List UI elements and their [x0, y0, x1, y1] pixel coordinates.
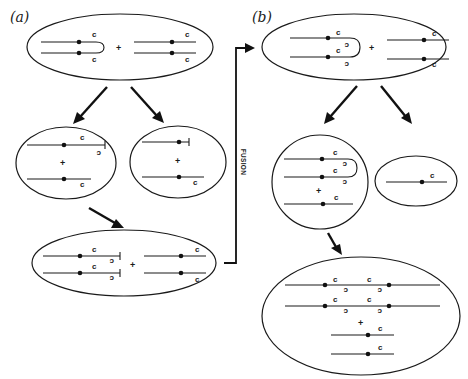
svg-text:c: c — [344, 41, 349, 50]
svg-text:c: c — [92, 30, 97, 39]
panel-b-daughter-right: c — [375, 156, 457, 206]
svg-text:c: c — [343, 286, 348, 295]
svg-text:+: + — [116, 43, 121, 53]
panel-b-arrow-to-bottom — [328, 233, 342, 255]
svg-text:c: c — [336, 46, 341, 55]
panel-a-label: (a) — [10, 9, 29, 25]
svg-text:c: c — [377, 307, 382, 316]
svg-text:c: c — [333, 148, 338, 157]
panel-a-division-arrows — [73, 87, 164, 124]
svg-text:c: c — [344, 60, 349, 69]
panel-a-top-cell: c c + c c — [27, 14, 213, 80]
svg-text:c: c — [109, 274, 114, 283]
svg-text:+: + — [130, 260, 135, 270]
svg-text:c: c — [96, 149, 101, 158]
panel-b-division-arrows — [324, 86, 412, 124]
bfb-cycle-diagram: (a) c c + c c c c + c — [0, 0, 468, 379]
panel-b-top-cell: c c c c + c c — [262, 14, 449, 80]
svg-text:c: c — [377, 286, 382, 295]
svg-text:+: + — [369, 43, 374, 53]
svg-text:c: c — [185, 30, 190, 39]
svg-text:c: c — [92, 55, 97, 64]
panel-b-daughter-left: c c c c + c — [272, 135, 368, 229]
svg-text:c: c — [80, 133, 85, 142]
panel-b-label: (b) — [252, 9, 272, 25]
svg-text:c: c — [343, 307, 348, 316]
svg-text:c: c — [430, 171, 435, 180]
svg-text:c: c — [342, 160, 347, 169]
svg-text:c: c — [378, 324, 383, 333]
svg-text:+: + — [358, 318, 363, 328]
svg-text:c: c — [333, 295, 338, 304]
svg-text:c: c — [342, 178, 347, 187]
svg-text:c: c — [336, 28, 341, 37]
svg-text:c: c — [333, 275, 338, 284]
svg-text:c: c — [334, 193, 339, 202]
svg-text:c: c — [195, 275, 200, 284]
svg-text:c: c — [367, 275, 372, 284]
panel-a-daughter-right: + c — [130, 126, 226, 198]
fusion-connector-arrow: FUSION — [224, 43, 255, 263]
svg-text:c: c — [109, 257, 114, 266]
panel-a-bottom-cell: c c c c + c c — [32, 230, 216, 296]
svg-text:c: c — [367, 295, 372, 304]
svg-text:c: c — [333, 166, 338, 175]
fusion-label: FUSION — [240, 149, 247, 175]
svg-text:c: c — [193, 178, 198, 187]
svg-text:c: c — [80, 180, 85, 189]
svg-text:c: c — [195, 245, 200, 254]
panel-a-arrow-to-bottom — [89, 208, 124, 228]
svg-text:c: c — [92, 245, 97, 254]
panel-b-bottom-cell: c c c c c c c c + c c — [262, 257, 460, 375]
svg-text:+: + — [175, 156, 180, 166]
svg-text:c: c — [92, 262, 97, 271]
svg-text:c: c — [185, 55, 190, 64]
svg-text:c: c — [378, 343, 383, 352]
svg-text:+: + — [60, 158, 65, 168]
svg-text:+: + — [316, 186, 321, 196]
svg-text:c: c — [432, 60, 437, 69]
svg-text:c: c — [432, 29, 437, 38]
panel-a-daughter-left: c c + c — [16, 127, 116, 199]
